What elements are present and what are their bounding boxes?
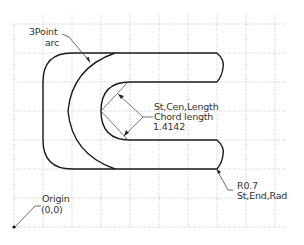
label-stcen-line3: 1.4142 bbox=[153, 122, 185, 132]
top-arm-cap bbox=[217, 53, 223, 82]
arrowhead-icon bbox=[124, 130, 129, 136]
label-origin-line1: Origin bbox=[42, 194, 70, 204]
arrowhead-icon bbox=[86, 57, 90, 63]
bottom-arm-cap bbox=[217, 140, 223, 169]
label-radius-line2: St,End,Rad bbox=[237, 191, 287, 201]
arrowhead-icon bbox=[217, 169, 221, 174]
label-3point-line1: 3Point bbox=[29, 27, 57, 37]
label-origin-line2: (0,0) bbox=[41, 205, 63, 215]
leader-origin bbox=[15, 206, 41, 227]
leader-3point bbox=[62, 34, 90, 62]
origin-point-icon bbox=[12, 225, 15, 228]
label-3point-line2: arc bbox=[45, 38, 59, 48]
